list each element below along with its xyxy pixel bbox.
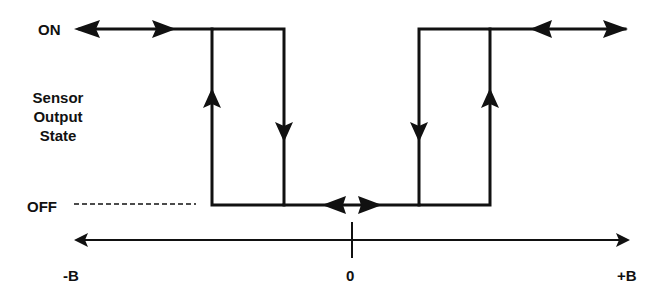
- right-hysteresis-loop: [419, 29, 490, 205]
- hysteresis-diagram: [0, 0, 660, 295]
- off-left-arrow-icon: [322, 196, 346, 214]
- left-hysteresis-loop: [212, 29, 284, 205]
- on-right-side-left-arrow-icon: [530, 20, 552, 38]
- off-right-arrow-icon: [358, 196, 382, 214]
